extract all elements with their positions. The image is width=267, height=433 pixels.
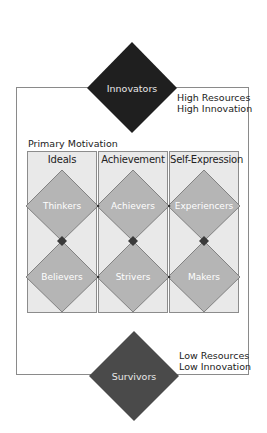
diamond-layer [0,0,267,433]
innovators-label: Innovators [107,83,158,94]
strivers-label: Strivers [116,272,151,282]
makers-label: Makers [188,272,220,282]
believers-label: Believers [41,272,83,282]
achievers-label: Achievers [111,201,155,211]
thinkers-label: Thinkers [43,201,81,211]
survivors-label: Survivors [112,371,157,382]
experiencers-label: Experiencers [175,201,234,211]
